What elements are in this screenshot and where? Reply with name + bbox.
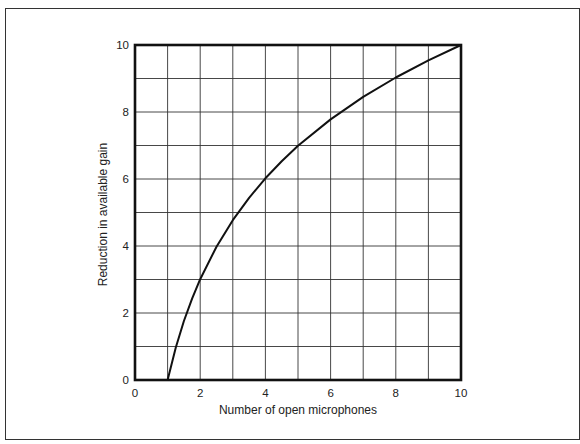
x-tick-label: 0 (132, 387, 138, 399)
x-tick-label: 2 (197, 387, 203, 399)
y-tick-label: 0 (123, 374, 129, 386)
x-tick-label: 8 (393, 387, 399, 399)
y-tick-labels: 0246810 (116, 39, 129, 386)
y-tick-label: 8 (123, 106, 129, 118)
x-axis-label: Number of open microphones (219, 403, 377, 417)
x-tick-label: 4 (262, 387, 269, 399)
y-tick-label: 10 (116, 39, 129, 51)
y-tick-label: 4 (123, 240, 130, 252)
y-tick-label: 6 (123, 173, 129, 185)
y-axis-label: Reduction in available gain (96, 143, 110, 286)
grid (135, 45, 461, 380)
y-tick-label: 2 (123, 307, 129, 319)
x-tick-label: 10 (455, 387, 468, 399)
x-tick-label: 6 (327, 387, 333, 399)
x-tick-labels: 0246810 (132, 387, 468, 399)
